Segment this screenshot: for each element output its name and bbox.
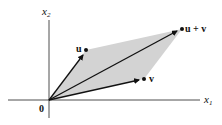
- vector-diagram: [0, 0, 222, 125]
- x2-axis-label: x2: [42, 6, 50, 19]
- point-u-plus-v: [180, 27, 184, 31]
- point-v: [142, 77, 146, 81]
- point-u: [84, 48, 88, 52]
- label-v: v: [149, 74, 154, 84]
- label-u-plus-v: u + v: [185, 24, 206, 34]
- vector-u-plus-v: [49, 31, 177, 100]
- x1-axis-label: x1: [204, 94, 212, 107]
- origin-label: 0: [39, 104, 44, 114]
- label-u: u: [76, 44, 82, 54]
